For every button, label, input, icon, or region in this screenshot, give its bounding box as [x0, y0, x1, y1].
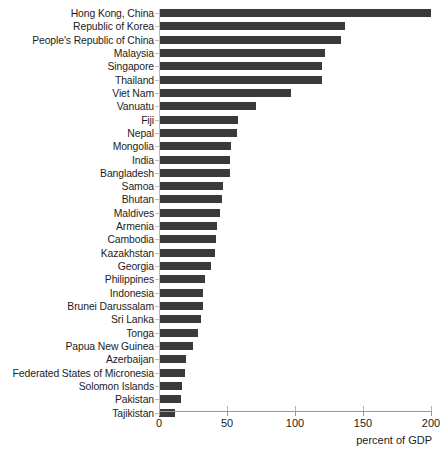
x-axis-tick-label: 100	[286, 417, 304, 429]
x-axis-title: percent of GDP	[356, 434, 432, 446]
category-label: Fiji	[0, 115, 154, 126]
category-tick	[155, 373, 159, 374]
category-label: Cambodia	[0, 234, 154, 245]
category-label: Federated States of Micronesia	[0, 368, 154, 379]
x-axis-tick-inner	[227, 406, 228, 411]
category-tick	[155, 106, 159, 107]
bar	[159, 302, 203, 310]
category-label: Indonesia	[0, 288, 154, 299]
category-tick	[155, 413, 159, 414]
category-tick	[155, 26, 159, 27]
category-label: Philippines	[0, 274, 154, 285]
x-axis-tick-inner	[431, 406, 432, 411]
category-label: Bhutan	[0, 194, 154, 205]
category-tick	[155, 40, 159, 41]
bar-chart: Hong Kong, ChinaRepublic of KoreaPeople'…	[0, 0, 442, 458]
category-tick	[155, 306, 159, 307]
value-axis-baseline	[159, 9, 160, 411]
bar	[159, 129, 237, 137]
category-tick	[155, 386, 159, 387]
bar	[159, 89, 291, 97]
category-tick	[155, 253, 159, 254]
category-tick	[155, 346, 159, 347]
bar	[159, 22, 345, 30]
category-label: Nepal	[0, 128, 154, 139]
bar	[159, 382, 182, 390]
x-axis-tick	[431, 411, 432, 416]
category-tick	[155, 359, 159, 360]
category-tick	[155, 333, 159, 334]
bar	[159, 156, 230, 164]
bar	[159, 116, 238, 124]
category-tick	[155, 66, 159, 67]
category-label: India	[0, 155, 154, 166]
category-tick	[155, 266, 159, 267]
category-label: Tonga	[0, 328, 154, 339]
bar	[159, 209, 220, 217]
category-label: Papua New Guinea	[0, 341, 154, 352]
category-label: Vanuatu	[0, 101, 154, 112]
category-label: Pakistan	[0, 394, 154, 405]
bar	[159, 76, 322, 84]
bar	[159, 342, 193, 350]
category-tick	[155, 186, 159, 187]
category-tick	[155, 293, 159, 294]
category-tick	[155, 53, 159, 54]
bar	[159, 262, 211, 270]
bar	[159, 329, 198, 337]
category-tick	[155, 93, 159, 94]
category-label: Sri Lanka	[0, 314, 154, 325]
x-axis-tick	[159, 411, 160, 416]
bar	[159, 182, 223, 190]
category-tick	[155, 173, 159, 174]
category-label: Kazakhstan	[0, 248, 154, 259]
bar	[159, 355, 186, 363]
bar	[159, 369, 185, 377]
bar	[159, 275, 205, 283]
bar	[159, 169, 230, 177]
category-label: Singapore	[0, 61, 154, 72]
bar	[159, 409, 175, 417]
x-axis-tick	[227, 411, 228, 416]
category-label: Maldives	[0, 208, 154, 219]
bar	[159, 49, 325, 57]
x-axis-tick-inner	[363, 406, 364, 411]
category-label: Samoa	[0, 181, 154, 192]
category-tick	[155, 319, 159, 320]
x-axis-tick-label: 0	[156, 417, 162, 429]
category-tick	[155, 279, 159, 280]
bar	[159, 36, 341, 44]
category-tick	[155, 399, 159, 400]
category-label: People's Republic of China	[0, 35, 154, 46]
bar	[159, 249, 215, 257]
category-tick	[155, 213, 159, 214]
bar	[159, 315, 201, 323]
category-label: Solomon Islands	[0, 381, 154, 392]
bar	[159, 235, 216, 243]
bar	[159, 222, 217, 230]
bar	[159, 195, 222, 203]
bar	[159, 62, 322, 70]
category-tick	[155, 133, 159, 134]
category-label: Bangladesh	[0, 168, 154, 179]
bar	[159, 289, 203, 297]
category-label: Malaysia	[0, 48, 154, 59]
category-tick	[155, 226, 159, 227]
x-axis-tick-label: 200	[422, 417, 440, 429]
category-axis-labels: Hong Kong, ChinaRepublic of KoreaPeople'…	[0, 9, 154, 410]
category-label: Azerbaijan	[0, 354, 154, 365]
x-axis-tick-inner	[159, 406, 160, 411]
category-tick	[155, 13, 159, 14]
category-label: Georgia	[0, 261, 154, 272]
x-axis-tick-label: 50	[221, 417, 233, 429]
x-axis-tick-label: 150	[354, 417, 372, 429]
bar	[159, 9, 431, 17]
category-tick	[155, 80, 159, 81]
category-label: Tajikistan	[0, 408, 154, 419]
category-label: Hong Kong, China	[0, 8, 154, 19]
category-tick	[155, 160, 159, 161]
category-label: Mongolia	[0, 141, 154, 152]
plot-area	[159, 9, 431, 410]
category-tick	[155, 146, 159, 147]
bar	[159, 395, 181, 403]
